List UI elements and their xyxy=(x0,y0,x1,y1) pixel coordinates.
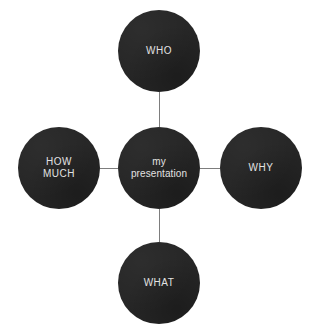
node-why[interactable]: WHY xyxy=(220,127,302,209)
connector-center-to-how-much xyxy=(100,168,118,169)
clipped-header-text xyxy=(0,0,320,3)
node-why-label: WHY xyxy=(249,162,274,174)
node-center-my-presentation[interactable]: my presentation xyxy=(118,127,200,209)
node-how-much[interactable]: HOW MUCH xyxy=(18,127,100,209)
node-what[interactable]: WHAT xyxy=(118,242,200,324)
mind-map-canvas: WHO HOW MUCH my presentation WHY WHAT xyxy=(0,0,320,327)
node-who-label: WHO xyxy=(146,45,172,57)
node-how-much-label: HOW MUCH xyxy=(43,156,75,180)
node-center-label: my presentation xyxy=(131,156,187,180)
node-what-label: WHAT xyxy=(144,277,175,289)
connector-center-to-what xyxy=(159,209,160,242)
connector-center-to-why xyxy=(200,168,220,169)
node-who[interactable]: WHO xyxy=(118,10,200,92)
connector-center-to-who xyxy=(159,92,160,127)
